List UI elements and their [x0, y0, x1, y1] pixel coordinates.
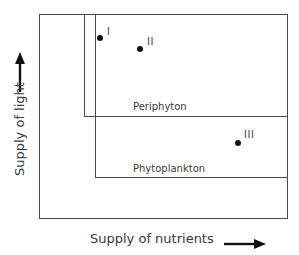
point-iii-marker	[235, 140, 241, 146]
x-axis-label-group: Supply of nutrients	[90, 231, 266, 246]
point-iii-label: III	[244, 130, 254, 140]
phytoplankton-region-box	[95, 14, 288, 178]
point-i-marker	[97, 35, 103, 41]
y-axis-label-group: Supply of light	[8, 52, 32, 182]
point-i-label: I	[107, 27, 110, 37]
phytoplankton-label: Phytoplankton	[133, 164, 205, 174]
y-axis-label: Supply of light	[12, 82, 27, 176]
point-ii-label: II	[147, 37, 154, 47]
x-axis-label: Supply of nutrients	[90, 231, 214, 246]
arrow-right-icon	[224, 234, 266, 244]
point-ii-marker	[137, 46, 143, 52]
diagram-canvas: Periphyton Phytoplankton I II III Supply…	[0, 0, 299, 255]
periphyton-label: Periphyton	[133, 102, 187, 112]
